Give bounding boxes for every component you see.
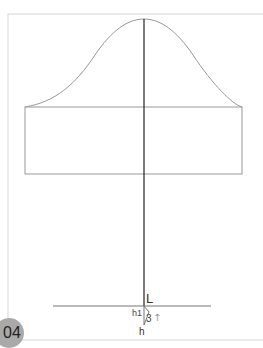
label-L: L [146,291,153,306]
bell-curve [25,19,242,107]
label-3: 3 [146,313,152,324]
arrow-up-icon: ↑ [153,312,161,323]
frame-border [8,14,263,340]
body-rectangle [25,107,242,174]
label-h1: h1 [132,308,142,318]
label-h: h [139,326,145,337]
